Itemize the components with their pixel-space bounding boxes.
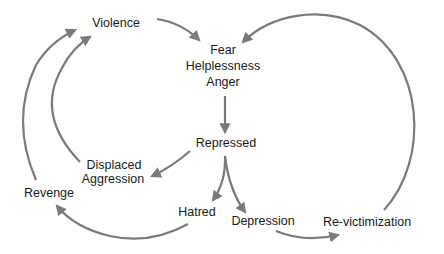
node-label-helplessness: Helplessness [186, 59, 260, 73]
node-label-revictimization: Re-victimization [323, 215, 411, 229]
node-label-fear: Fear [210, 43, 236, 57]
node-label-repressed: Repressed [196, 136, 256, 150]
node-depression: Depression [231, 214, 294, 228]
arrow-violence-to-fear [157, 19, 199, 40]
arrow-displaced-aggression-to-violence [52, 37, 90, 162]
node-label-depression: Depression [231, 214, 294, 228]
node-label-anger: Anger [206, 75, 239, 89]
node-revenge: Revenge [24, 186, 74, 200]
arrow-depression-to-revictimization [276, 231, 338, 238]
node-label-hatred: Hatred [178, 205, 216, 219]
node-label-revenge: Revenge [24, 186, 74, 200]
arrow-revenge-to-violence [23, 30, 75, 180]
node-revictimization: Re-victimization [323, 215, 411, 229]
node-label-displaced: Displaced [87, 158, 142, 172]
node-violence: Violence [92, 16, 140, 30]
node-label-violence: Violence [92, 16, 140, 30]
node-displaced-aggression: Displaced Aggression [82, 158, 145, 186]
arrow-repressed-to-displaced-aggression [152, 151, 190, 176]
arrow-hatred-to-revenge [57, 206, 188, 239]
node-hatred: Hatred [178, 205, 216, 219]
cycle-of-violence-diagram: Violence Fear Helplessness Anger Repress… [0, 0, 444, 254]
arrow-repressed-to-depression [225, 156, 245, 212]
arrow-revictimization-to-fear [243, 14, 414, 210]
arrow-repressed-to-hatred [213, 156, 225, 200]
node-label-aggression: Aggression [82, 172, 145, 186]
node-fear-helplessness-anger: Fear Helplessness Anger [186, 43, 260, 89]
node-repressed: Repressed [196, 136, 256, 150]
